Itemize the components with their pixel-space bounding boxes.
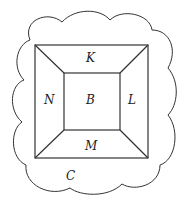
diagonal-bottom-right [120,130,148,158]
label-center-region: B [85,93,95,107]
diagonal-top-right [120,45,148,73]
label-left-region: N [43,93,55,107]
label-right-region: L [127,93,136,107]
diagonal-top-left [35,45,64,73]
label-top-region: K [85,51,96,65]
label-outside-region: C [66,169,75,183]
label-bottom-region: M [84,139,98,153]
diagram-svg: K N B L M C [0,0,183,203]
diagram-canvas: K N B L M C [0,0,183,203]
diagonal-bottom-left [35,130,64,158]
